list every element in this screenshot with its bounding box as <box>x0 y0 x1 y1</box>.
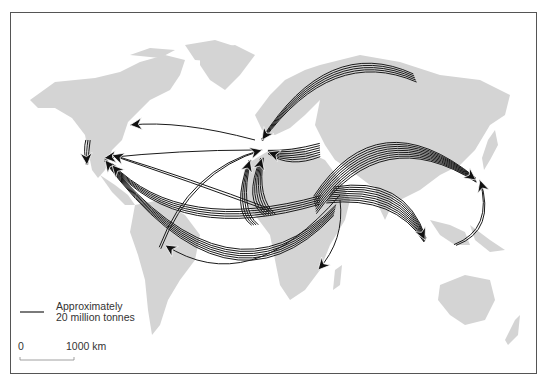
scale-start-label: 0 <box>18 341 24 352</box>
land-southeast-asia-islands <box>430 220 505 252</box>
land-new-zealand <box>505 315 520 345</box>
land-japan <box>482 130 498 170</box>
land-australia <box>438 275 495 325</box>
land-greenland <box>200 45 255 90</box>
flow-europe-to-canada <box>130 118 255 140</box>
land-madagascar <box>333 265 342 290</box>
flow-line <box>130 124 255 140</box>
flow-line <box>104 150 255 158</box>
scale-end-label: 1000 km <box>66 341 106 352</box>
land-south-america <box>130 200 200 335</box>
world-map <box>0 0 547 386</box>
legend-label-line2: 20 million tonnes <box>56 312 135 323</box>
